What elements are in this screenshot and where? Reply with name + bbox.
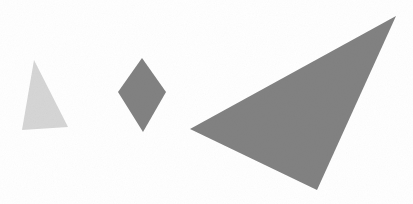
shapes-canvas-root: Geometric Shapes (0, 0, 413, 204)
shapes-svg-canvas: Geometric Shapes (0, 0, 413, 204)
